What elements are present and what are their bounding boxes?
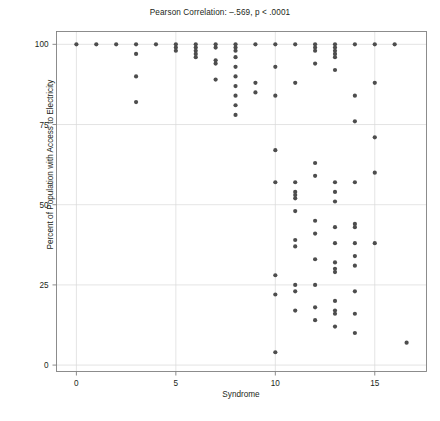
data-point bbox=[293, 42, 297, 46]
data-point bbox=[373, 81, 377, 85]
data-point bbox=[273, 42, 277, 46]
data-point bbox=[333, 199, 337, 203]
data-point bbox=[373, 241, 377, 245]
data-point bbox=[253, 42, 257, 46]
data-point bbox=[313, 305, 317, 309]
data-point bbox=[353, 289, 357, 293]
data-point bbox=[313, 318, 317, 322]
data-point bbox=[313, 161, 317, 165]
data-point bbox=[233, 84, 237, 88]
data-point bbox=[373, 171, 377, 175]
data-point bbox=[293, 244, 297, 248]
data-point bbox=[233, 74, 237, 78]
data-point bbox=[353, 254, 357, 258]
data-point bbox=[353, 331, 357, 335]
data-point bbox=[353, 225, 357, 229]
data-point bbox=[273, 273, 277, 277]
data-point bbox=[293, 238, 297, 242]
data-point-series bbox=[74, 42, 408, 354]
data-point bbox=[353, 264, 357, 268]
data-point bbox=[293, 180, 297, 184]
data-point bbox=[333, 180, 337, 184]
plot-area: 0255075100051015 bbox=[0, 0, 440, 421]
plot-frame bbox=[57, 32, 427, 372]
data-point bbox=[293, 209, 297, 213]
data-point bbox=[293, 196, 297, 200]
data-point bbox=[353, 94, 357, 98]
data-point bbox=[333, 68, 337, 72]
data-point bbox=[233, 103, 237, 107]
data-point bbox=[273, 292, 277, 296]
data-point bbox=[333, 299, 337, 303]
data-point bbox=[174, 49, 178, 53]
y-axis-tick-label: 50 bbox=[39, 201, 49, 210]
data-point bbox=[293, 81, 297, 85]
x-axis-tick-label: 0 bbox=[74, 379, 79, 388]
y-axis-tick-label: 25 bbox=[39, 281, 49, 290]
data-point bbox=[194, 55, 198, 59]
data-point bbox=[154, 42, 158, 46]
data-point bbox=[333, 312, 337, 316]
data-point bbox=[313, 231, 317, 235]
data-point bbox=[94, 42, 98, 46]
data-point bbox=[353, 180, 357, 184]
data-point bbox=[353, 42, 357, 46]
y-axis-tick-label: 100 bbox=[35, 40, 49, 49]
data-point bbox=[233, 113, 237, 117]
data-point bbox=[233, 49, 237, 53]
data-point bbox=[313, 219, 317, 223]
x-axis-tick-label: 15 bbox=[370, 379, 380, 388]
data-point bbox=[214, 61, 218, 65]
data-point bbox=[405, 341, 409, 345]
y-axis-tick-label: 0 bbox=[44, 361, 49, 370]
data-point bbox=[134, 52, 138, 56]
data-point bbox=[293, 289, 297, 293]
data-point bbox=[333, 241, 337, 245]
data-point bbox=[333, 225, 337, 229]
data-point bbox=[333, 324, 337, 328]
data-point bbox=[273, 65, 277, 69]
x-axis-label: Syndrome bbox=[56, 390, 426, 399]
data-point bbox=[313, 174, 317, 178]
data-point bbox=[313, 283, 317, 287]
data-point bbox=[134, 42, 138, 46]
data-point bbox=[253, 81, 257, 85]
data-point bbox=[273, 148, 277, 152]
data-point bbox=[273, 180, 277, 184]
data-point bbox=[214, 78, 218, 82]
data-point bbox=[273, 94, 277, 98]
x-axis-tick-label: 10 bbox=[271, 379, 281, 388]
data-point bbox=[233, 55, 237, 59]
data-point bbox=[293, 283, 297, 287]
x-axis-tick-label: 5 bbox=[174, 379, 179, 388]
data-point bbox=[353, 241, 357, 245]
data-point bbox=[353, 312, 357, 316]
data-point bbox=[134, 100, 138, 104]
data-point bbox=[233, 94, 237, 98]
data-point bbox=[273, 350, 277, 354]
data-point bbox=[134, 74, 138, 78]
data-point bbox=[253, 90, 257, 94]
data-point bbox=[214, 45, 218, 49]
data-point bbox=[333, 260, 337, 264]
data-point bbox=[333, 270, 337, 274]
data-point bbox=[333, 55, 337, 59]
data-point bbox=[313, 257, 317, 261]
data-point bbox=[373, 42, 377, 46]
data-point bbox=[393, 42, 397, 46]
data-point bbox=[233, 65, 237, 69]
data-point bbox=[373, 135, 377, 139]
data-point bbox=[114, 42, 118, 46]
data-point bbox=[313, 61, 317, 65]
data-point bbox=[293, 308, 297, 312]
y-axis-tick-label: 75 bbox=[39, 121, 49, 130]
data-point bbox=[333, 190, 337, 194]
data-point bbox=[353, 119, 357, 123]
data-point bbox=[313, 49, 317, 53]
data-point bbox=[74, 42, 78, 46]
scatter-plot-figure: Pearson Correlation: –.569, p < .0001 Pe… bbox=[0, 0, 440, 421]
